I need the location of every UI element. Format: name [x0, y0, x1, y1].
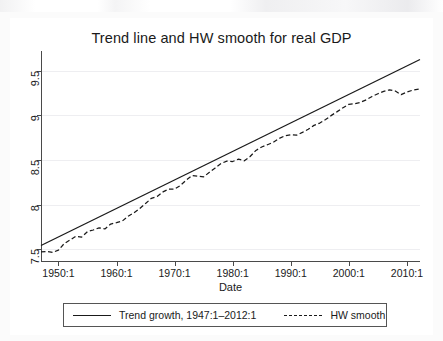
x-tick-label: 1980:1 — [217, 267, 249, 279]
x-tick-label: 1960:1 — [100, 267, 132, 279]
chart-figure: Trend line and HW smooth for real GDP 7.… — [10, 18, 433, 335]
solid-line-swatch-icon — [73, 310, 111, 320]
y-tick-label: 8 — [29, 205, 41, 211]
x-axis-title: Date — [41, 281, 420, 293]
x-tick-label: 1970:1 — [159, 267, 191, 279]
plot-area: 7.588.599.5 1950:11960:11970:11980:11990… — [41, 51, 420, 262]
legend-entry-trend-growth: Trend growth, 1947:1–2012:1 — [73, 304, 256, 326]
x-tick-mark — [407, 262, 408, 266]
legend-label-hw-smooth: HW smooth — [330, 309, 385, 321]
x-tick-label: 2010:1 — [391, 267, 423, 279]
scan-artifact-strip — [0, 0, 443, 12]
x-tick-label: 2000:1 — [333, 267, 365, 279]
y-tick-label: 9 — [29, 115, 41, 121]
y-tick-label: 9.5 — [29, 71, 41, 86]
legend-label-trend-growth: Trend growth, 1947:1–2012:1 — [119, 309, 256, 321]
x-tick-label: 1990:1 — [275, 267, 307, 279]
y-tick-label: 8.5 — [29, 160, 41, 175]
x-tick-label: 1950:1 — [42, 267, 74, 279]
x-tick-mark — [349, 262, 350, 266]
x-tick-mark — [117, 262, 118, 266]
x-tick-mark — [233, 262, 234, 266]
chart-legend: Trend growth, 1947:1–2012:1 HW smooth — [63, 303, 387, 327]
dashed-line-swatch-icon — [284, 310, 322, 320]
series-trend-growth — [41, 59, 420, 245]
y-tick-label: 7.5 — [29, 249, 41, 264]
x-tick-mark — [291, 262, 292, 266]
data-series-layer — [41, 51, 420, 262]
figure-page: Trend line and HW smooth for real GDP 7.… — [0, 12, 443, 341]
legend-entry-hw-smooth: HW smooth — [284, 304, 385, 326]
chart-title: Trend line and HW smooth for real GDP — [10, 30, 433, 46]
x-tick-mark — [175, 262, 176, 266]
x-tick-mark — [58, 262, 59, 266]
series-hw-smooth — [41, 89, 420, 252]
